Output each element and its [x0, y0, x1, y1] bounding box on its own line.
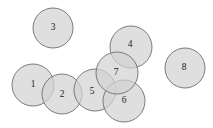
circle-label-6: 6	[122, 95, 127, 105]
circle-label-2: 2	[60, 89, 65, 99]
diagram-canvas: 12345678	[0, 0, 213, 128]
circle-label-7: 7	[114, 67, 119, 77]
circle-label-5: 5	[90, 86, 95, 96]
circle-label-3: 3	[51, 22, 56, 32]
circle-label-4: 4	[128, 39, 133, 49]
circle-label-8: 8	[182, 62, 187, 72]
circle-label-1: 1	[31, 79, 36, 89]
circles-diagram: 12345678	[0, 0, 213, 128]
circle-shape-group	[12, 8, 205, 122]
